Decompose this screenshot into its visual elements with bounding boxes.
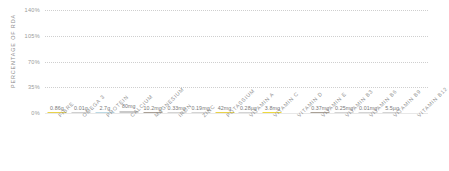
x-axis-labels: FIBREOMEGA 3PROTEINCALCIUMMAGNESIUMIRONZ… [45, 114, 428, 170]
y-tick-label: 105% [24, 33, 40, 39]
y-tick-label: 35% [28, 84, 40, 90]
bar-column[interactable]: 42mg [213, 10, 237, 113]
bar-column[interactable]: 0.86g [45, 10, 69, 113]
bar-column[interactable]: 0.01g [69, 10, 93, 113]
y-tick-label: 0% [31, 110, 40, 116]
bar-column[interactable]: 0.19mg [189, 10, 213, 113]
y-tick-label: 140% [24, 7, 40, 13]
y-tick-label: 70% [28, 59, 40, 65]
y-axis-title: PERCENTAGE OF RDA [10, 5, 16, 97]
